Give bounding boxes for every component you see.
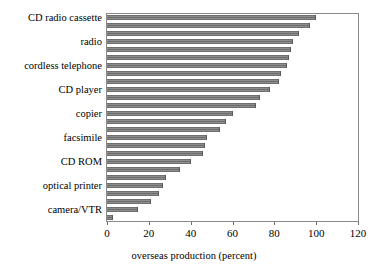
x-tick-mark [191,222,192,225]
x-tick-mark [107,222,108,225]
x-tick-mark [149,222,150,225]
x-tick-mark [358,222,359,225]
bar [107,119,226,124]
bar-fill [107,111,233,116]
x-axis-ticks: 020406080100120 [106,222,359,252]
y-axis-label-cd-rom: CD ROM [0,156,102,167]
bar [107,167,180,172]
bar [107,127,220,132]
bar [107,31,299,36]
bars-layer [107,14,358,221]
bar-fill [107,199,151,204]
bar [107,23,310,28]
bar [107,159,191,164]
bar [107,47,291,52]
y-axis-label-cd-player: CD player [0,84,102,95]
bar [107,183,163,188]
bar-chart: CD radio cassetteradiocordless telephone… [0,0,388,275]
y-axis-label-optical-printer: optical printer [0,180,102,191]
bar [107,87,270,92]
bar [107,103,256,108]
bar-fill [107,71,281,76]
bar-fill [107,143,205,148]
y-axis-label-camera-vtr: camera/VTR [0,204,102,215]
x-tick-label-0: 0 [104,227,110,239]
bar-fill [107,15,316,20]
bar-fill [107,183,163,188]
bar [107,191,159,196]
bar-fill [107,47,291,52]
y-axis-label-radio: radio [0,36,102,47]
x-tick-mark [233,222,234,225]
bar [107,143,205,148]
bar-fill [107,151,203,156]
bar-fill [107,167,180,172]
y-axis-label-copier: copier [0,108,102,119]
bar-fill [107,63,287,68]
bar [107,215,113,220]
bar [107,199,151,204]
x-axis-title: overseas production (percent) [0,250,388,262]
bar [107,207,138,212]
bar-fill [107,191,159,196]
bar-fill [107,135,207,140]
bar-fill [107,127,220,132]
bar [107,63,287,68]
bar [107,15,316,20]
y-axis-label-facsimile: facsimile [0,132,102,143]
x-tick-label-80: 80 [269,227,280,239]
x-tick-label-100: 100 [308,227,325,239]
bar [107,151,203,156]
x-tick-label-60: 60 [227,227,238,239]
bar-fill [107,159,191,164]
bar [107,71,281,76]
x-tick-label-40: 40 [185,227,196,239]
y-axis-category-labels: CD radio cassetteradiocordless telephone… [0,14,102,221]
bar-fill [107,175,166,180]
bar [107,79,279,84]
bar-fill [107,39,293,44]
x-tick-mark [274,222,275,225]
x-tick-mark [316,222,317,225]
x-tick-label-20: 20 [143,227,154,239]
x-tick-label-120: 120 [350,227,367,239]
bar [107,175,166,180]
bar [107,55,289,60]
bar-fill [107,207,138,212]
bar [107,135,207,140]
bar-fill [107,31,299,36]
bar-fill [107,215,113,220]
bar-fill [107,79,279,84]
bar [107,111,233,116]
y-axis-label-cd-radio-cassette: CD radio cassette [0,12,102,23]
bar-fill [107,95,260,100]
bar-fill [107,119,226,124]
bar-fill [107,87,270,92]
bar-fill [107,103,256,108]
bar [107,95,260,100]
bar-fill [107,23,310,28]
y-axis-label-cordless-telephone: cordless telephone [0,60,102,71]
bar [107,39,293,44]
bar-fill [107,55,289,60]
